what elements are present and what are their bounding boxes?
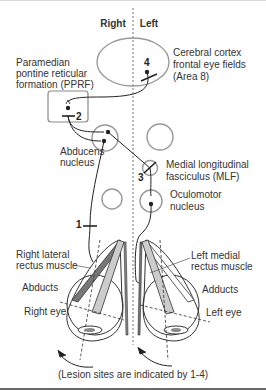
oculomotor-label: Oculomotor nucleus bbox=[170, 189, 224, 212]
right-oculomotor-nucleus bbox=[102, 189, 122, 209]
left-abducens-nucleus bbox=[147, 124, 173, 150]
header-left: Left bbox=[140, 18, 159, 29]
left-eye-rotation-arrow bbox=[140, 352, 172, 366]
caption: (Lesion sites are indicated by 1-4) bbox=[58, 369, 208, 380]
right-arrowhead bbox=[58, 350, 66, 357]
pprf-neuron bbox=[66, 106, 70, 110]
lesion-4-mark bbox=[141, 74, 157, 81]
right-muscle-label: Right lateral rectus muscle bbox=[16, 249, 78, 271]
right-eye-rotation-arrow bbox=[60, 355, 93, 367]
abducens-mlf-fiber bbox=[108, 132, 150, 168]
mlf-oculomotor-fiber bbox=[150, 168, 151, 196]
mlf-label: Medial longitudinal fasciculus (MLF) bbox=[166, 159, 252, 182]
lesion-1: 1 bbox=[76, 219, 82, 230]
lesion-3: 3 bbox=[138, 172, 144, 183]
left-action-label: Adducts bbox=[202, 284, 238, 295]
left-arrowhead bbox=[138, 347, 146, 354]
right-eye-label: Right eye bbox=[24, 306, 67, 317]
header-right: Right bbox=[100, 18, 126, 29]
pprf-label: Paramedian pontine reticular formation (… bbox=[16, 57, 94, 90]
cortex-label: Cerebral cortex frontal eye fields (Area… bbox=[173, 47, 249, 82]
eye-movement-pathway-diagram: Right Left Cerebral cortex frontal eye f… bbox=[0, 0, 266, 390]
right-action-label: Abducts bbox=[22, 282, 58, 293]
left-muscle-label: Left medial rectus muscle bbox=[191, 250, 253, 272]
left-eye-label: Left eye bbox=[206, 307, 242, 318]
lesion-2: 2 bbox=[76, 111, 82, 122]
lesion-4: 4 bbox=[144, 57, 150, 68]
